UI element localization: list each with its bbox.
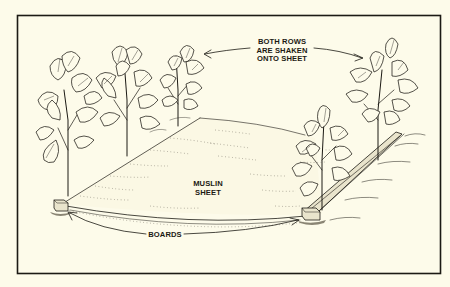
- muslin-sheet-diagram: BOTH ROWS ARE SHAKEN ONTO SHEET MUSLIN S…: [0, 0, 450, 287]
- rows-label-line-3: ONTO SHEET: [257, 54, 307, 63]
- rows-shaken-label: BOTH ROWS ARE SHAKEN ONTO SHEET: [256, 37, 307, 63]
- sheet-label-line-1: MUSLIN: [193, 179, 223, 188]
- muslin-sheet-label: MUSLIN SHEET: [193, 179, 223, 197]
- boards-label: BOARDS: [148, 230, 182, 239]
- sheet-label-line-2: SHEET: [195, 188, 221, 197]
